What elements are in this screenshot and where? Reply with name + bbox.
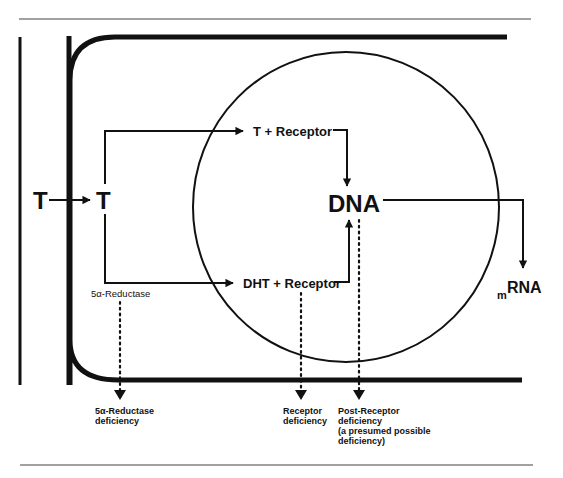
receptor-deficiency-line-1: Receptor [283, 406, 323, 416]
mrna-subscript: m [497, 289, 507, 301]
post-receptor-deficiency-line-3: (a presumed possible [338, 426, 431, 436]
t-receptor-label: T + Receptor [253, 124, 332, 139]
reductase-deficiency-label: 5α-Reductase deficiency [95, 406, 154, 426]
t-outside-label: T [33, 187, 48, 214]
dht-receptor-to-dna-arrow [334, 220, 349, 282]
dht-receptor-label: DHT + Receptor [243, 276, 341, 291]
cell-membrane [70, 37, 522, 385]
reductase-deficiency-line-2: deficiency [95, 416, 139, 426]
receptor-deficiency-label: Receptor deficiency [283, 406, 327, 426]
post-receptor-deficiency-arrowhead [353, 390, 365, 400]
t-to-t-receptor-arrow [105, 131, 243, 184]
t-inside-label: T [96, 187, 111, 214]
post-receptor-deficiency-line-1: Post-Receptor [338, 406, 400, 416]
dna-to-mrna-arrow [383, 200, 523, 268]
androgen-action-diagram: T T T + Receptor DHT + Receptor 5α-Reduc… [0, 0, 563, 478]
post-receptor-deficiency-line-4: deficiency) [338, 436, 385, 446]
reductase-deficiency-line-1: 5α-Reductase [95, 406, 154, 416]
receptor-deficiency-arrowhead [295, 390, 307, 400]
reductase-deficiency-arrowhead [114, 390, 126, 400]
enzyme-label: 5α-Reductase [91, 288, 150, 299]
receptor-deficiency-line-2: deficiency [283, 416, 327, 426]
t-receptor-to-dna-arrow [333, 130, 347, 186]
t-to-dht-receptor-arrow [105, 214, 233, 283]
dna-label: DNA [328, 190, 380, 217]
post-receptor-deficiency-label: Post-Receptor deficiency (a presumed pos… [338, 406, 431, 446]
mrna-label: RNA [507, 279, 542, 296]
post-receptor-deficiency-line-2: deficiency [338, 416, 382, 426]
